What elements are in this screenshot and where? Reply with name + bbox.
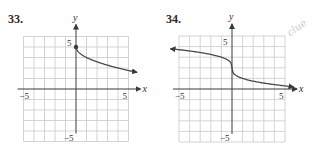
tick-label-x-min: −5 bbox=[20, 91, 30, 101]
tick-label-y-max: 5 bbox=[223, 37, 228, 47]
tick-label-x-max: 5 bbox=[279, 91, 284, 101]
tick-label-x-min: −5 bbox=[175, 91, 185, 101]
tick-label-y-max: 5 bbox=[67, 38, 72, 48]
y-axis-label: y bbox=[228, 11, 234, 22]
tick-label-y-min: −5 bbox=[220, 133, 230, 143]
x-axis-label: x bbox=[142, 83, 148, 94]
tick-label-x-max: 5 bbox=[123, 91, 128, 101]
plots-canvas: xy−555−5 xy−555−5 bbox=[0, 0, 316, 160]
graph-34: xy−555−5 bbox=[171, 11, 304, 143]
graph-33: xy−555−5 bbox=[18, 12, 148, 143]
x-axis-label: x bbox=[298, 83, 304, 94]
start-point-dot bbox=[74, 45, 78, 49]
y-axis-label: y bbox=[72, 12, 78, 23]
function-curve bbox=[76, 47, 137, 72]
tick-label-y-min: −5 bbox=[64, 133, 74, 143]
